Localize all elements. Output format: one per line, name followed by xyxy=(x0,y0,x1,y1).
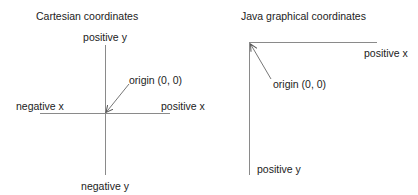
coordinate-axes-drawing xyxy=(0,0,418,195)
cartesian-negative-y-label: negative y xyxy=(81,180,129,192)
java-origin-label: origin (0, 0) xyxy=(273,78,326,90)
cartesian-origin-arrow xyxy=(106,84,129,113)
cartesian-negative-x-label: negative x xyxy=(16,100,64,112)
cartesian-positive-x-label: positive x xyxy=(161,100,205,112)
java-origin-arrow xyxy=(251,44,272,79)
java-positive-y-label: positive y xyxy=(257,163,301,175)
cartesian-origin-label: origin (0, 0) xyxy=(129,74,182,86)
java-positive-x-label: positive x xyxy=(364,47,408,59)
java-axes xyxy=(249,42,377,175)
cartesian-title: Cartesian coordinates xyxy=(36,10,138,22)
java-title: Java graphical coordinates xyxy=(241,10,366,22)
cartesian-positive-y-label: positive y xyxy=(83,31,127,43)
